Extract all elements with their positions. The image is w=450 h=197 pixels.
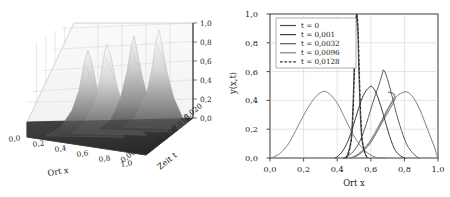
surface-ztick-0: 0,0: [200, 114, 212, 123]
legend-label-2: t = 0,0032: [301, 39, 340, 48]
surface-xtick-0: 0,0: [8, 133, 21, 144]
line-ytick-1: 0,2: [245, 124, 258, 134]
surface-ztick-3: 0,6: [200, 57, 212, 66]
line-ytick-0: 0,0: [245, 153, 258, 163]
surface-plot-svg: 0,0 0,2 0,4 0,6 0,8 1,0 0,0 0,2 0,4 0,6 …: [0, 0, 225, 197]
legend-label-4: t = 0,0128: [301, 57, 340, 66]
line-xtick-0: 0,0: [263, 164, 276, 174]
line-plot-svg: t = 0 t = 0,001 t = 0,0032 t = 0,0096 t …: [225, 0, 450, 197]
legend-label-1: t = 0,001: [301, 30, 335, 39]
surface-xtick-3: 0,6: [76, 148, 89, 159]
line-xtick-5: 1,0: [431, 164, 444, 174]
line-xtick-4: 0,8: [398, 164, 411, 174]
line-xtick-3: 0,6: [364, 164, 377, 174]
line-xtick-1: 0,2: [297, 164, 310, 174]
line-plot-panel: t = 0 t = 0,001 t = 0,0032 t = 0,0096 t …: [225, 0, 450, 197]
surface-xtick-1: 0,2: [32, 138, 45, 149]
legend-label-3: t = 0,0096: [301, 48, 340, 57]
surface-xtick-2: 0,4: [54, 143, 67, 154]
surface-ztick-4: 0,8: [200, 38, 212, 47]
line-yaxis-label: y(x,t): [228, 72, 238, 95]
line-ytick-4: 0,8: [245, 38, 258, 48]
surface-xaxis-label: Ort x: [47, 165, 70, 178]
surface-yaxis-label: Zeit t: [155, 150, 179, 172]
line-ytick-5: 1,0: [245, 9, 258, 19]
line-plot-x-axis: 0,0 0,2 0,4 0,6 0,8 1,0 Ort x: [263, 158, 444, 188]
surface-ztick-5: 1,0: [200, 19, 212, 28]
line-ytick-3: 0,6: [245, 67, 258, 77]
surface-ztick-1: 0,2: [200, 95, 212, 104]
surface-plot-panel: 0,0 0,2 0,4 0,6 0,8 1,0 0,0 0,2 0,4 0,6 …: [0, 0, 225, 197]
line-plot-y-axis: 0,0 0,2 0,4 0,6 0,8 1,0 y(x,t): [228, 9, 270, 163]
figure-root: 0,0 0,2 0,4 0,6 0,8 1,0 0,0 0,2 0,4 0,6 …: [0, 0, 450, 197]
legend-label-0: t = 0: [301, 21, 319, 30]
line-ytick-2: 0,4: [245, 95, 258, 105]
line-plot-legend: t = 0 t = 0,001 t = 0,0032 t = 0,0096 t …: [276, 18, 356, 68]
surface-ztick-2: 0,4: [200, 76, 212, 85]
line-xaxis-label: Ort x: [343, 178, 365, 188]
line-xtick-2: 0,4: [331, 164, 344, 174]
surface-xtick-4: 0,8: [98, 153, 111, 164]
